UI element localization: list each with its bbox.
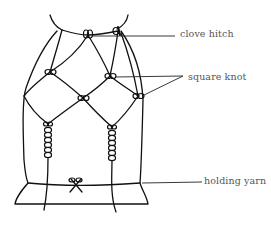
holding-yarn-cord [28, 183, 140, 185]
label-clove-hitch: clove hitch [180, 28, 234, 39]
top-cord [62, 30, 118, 35]
sinnet-right [109, 130, 116, 160]
sinnet-left [45, 127, 52, 157]
leader-lines [92, 36, 202, 183]
label-holding-yarn: holding yarn [204, 175, 266, 186]
label-square-knot: square knot [188, 71, 246, 82]
